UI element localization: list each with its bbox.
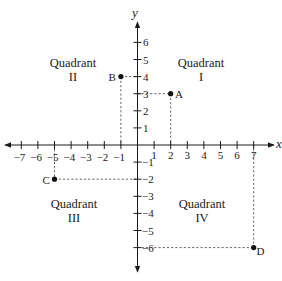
point-b-dot-icon [118, 74, 123, 79]
quadrant-numeral: III [68, 211, 81, 225]
y-tick-label: 1 [143, 122, 149, 134]
y-tick-label: −6 [142, 242, 154, 254]
x-tick-label: 5 [218, 149, 224, 161]
x-tick-label: −1 [113, 151, 125, 163]
point-a: A [168, 88, 183, 100]
point-a-label: A [175, 88, 183, 100]
point-d: D [251, 245, 264, 257]
y-tick-label: 2 [143, 105, 149, 117]
quadrant-numeral: IV [195, 211, 208, 225]
quadrant-title: Quadrant [51, 197, 98, 211]
quadrant-title: Quadrant [178, 56, 225, 70]
x-tick-label: −4 [63, 151, 75, 163]
x-tick-label: 2 [168, 149, 174, 161]
x-tick-label: −5 [47, 151, 59, 163]
quadrant-1-label: Quadrant I [178, 56, 225, 84]
x-tick-label: −2 [97, 151, 109, 163]
coordinate-plane: x y −7 −6 −5 −4 −3 −2 −1 1 2 3 4 5 6 7 [0, 0, 282, 281]
y-tick-label: 4 [143, 71, 149, 83]
y-tick-label: −2 [142, 173, 154, 185]
y-tick-label: 3 [143, 88, 149, 100]
y-axis-label: y [130, 5, 138, 20]
y-tick-label: −5 [142, 225, 154, 237]
x-tick-label: −6 [30, 151, 42, 163]
quadrant-numeral: II [69, 70, 77, 84]
y-tick-label: 5 [143, 54, 149, 66]
quadrant-3-label: Quadrant III [51, 197, 98, 225]
point-b: B [109, 71, 124, 83]
quadrant-2-label: Quadrant II [50, 56, 97, 84]
x-tick-labels: −7 −6 −5 −4 −3 −2 −1 1 2 3 4 5 6 7 [14, 149, 257, 163]
point-d-label: D [257, 245, 265, 257]
x-tick-label: 6 [234, 149, 240, 161]
quadrant-title: Quadrant [50, 56, 97, 70]
quadrant-title: Quadrant [179, 197, 226, 211]
y-tick-label: −3 [142, 190, 154, 202]
x-axis-label: x [275, 136, 282, 151]
point-b-label: B [109, 71, 116, 83]
y-tick-label: 6 [143, 36, 149, 48]
point-a-dot-icon [168, 91, 173, 96]
x-tick-label: −7 [14, 151, 26, 163]
point-c-dot-icon [52, 177, 57, 182]
point-c-label: C [43, 174, 50, 186]
y-tick-label: −1 [142, 156, 154, 168]
x-tick-label: 4 [201, 149, 207, 161]
y-tick-label: −4 [142, 207, 154, 219]
quadrant-numeral: I [199, 70, 203, 84]
x-tick-label: 3 [185, 149, 191, 161]
quadrant-4-label: Quadrant IV [179, 197, 226, 225]
x-tick-label: 7 [251, 149, 257, 161]
x-tick-label: −3 [80, 151, 92, 163]
